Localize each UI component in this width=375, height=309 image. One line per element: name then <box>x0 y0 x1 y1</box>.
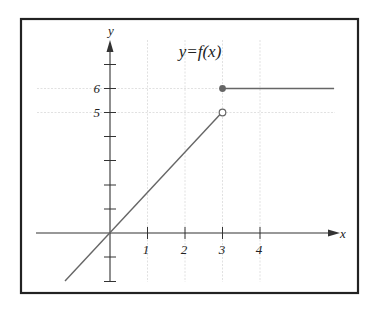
y-axis: 6 5 y <box>94 23 117 282</box>
filled-circle-marker-icon <box>219 85 226 92</box>
y-axis-arrow-icon <box>107 40 114 52</box>
x-tick-label-4: 4 <box>256 242 263 257</box>
y-tick-label-5: 5 <box>94 105 101 120</box>
chart-title: y=f(x) <box>177 42 222 61</box>
x-axis-arrow-icon <box>328 230 340 237</box>
x-tick-label-3: 3 <box>218 242 226 257</box>
horizontal-gridlines <box>37 89 335 113</box>
function-graph: 1 2 3 4 x 6 5 y y=f(x) <box>0 0 375 309</box>
x-tick-label-1: 1 <box>143 242 150 257</box>
y-axis-label: y <box>106 23 114 38</box>
x-axis: 1 2 3 4 x <box>36 226 346 257</box>
x-tick-label-2: 2 <box>181 242 188 257</box>
x-axis-label: x <box>339 226 346 241</box>
open-circle-marker-icon <box>219 109 226 116</box>
vertical-gridlines <box>148 40 261 282</box>
y-tick-label-6: 6 <box>94 81 101 96</box>
